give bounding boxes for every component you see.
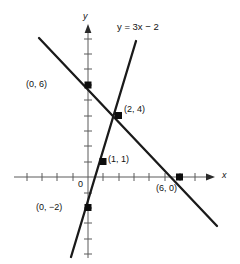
- x-axis: [14, 173, 215, 181]
- point-label-2-4: (2, 4): [124, 105, 145, 114]
- y-axis: [84, 24, 92, 258]
- origin-label: 0: [78, 180, 83, 189]
- marker-point-0-6: [85, 82, 92, 89]
- coordinate-plane-svg: [0, 0, 240, 264]
- equation-label: y = 3x − 2: [117, 22, 159, 32]
- marker-point-6-0: [176, 174, 183, 181]
- graph-figure: y x y = 3x − 2 0 (0, 6) (2, 4) (1, 1) (6…: [0, 0, 240, 264]
- line-y-equals-3x-minus-2: [71, 41, 136, 257]
- y-axis-label: y: [83, 12, 88, 21]
- x-axis-label: x: [222, 171, 227, 180]
- marker-point-1-1: [100, 158, 107, 165]
- point-label-6-0: (6, 0): [156, 184, 177, 193]
- marker-point-0-m2: [85, 204, 92, 211]
- point-label-0-6: (0, 6): [26, 80, 47, 89]
- point-label-0-minus-2: (0, −2): [36, 203, 62, 212]
- point-label-1-1: (1, 1): [108, 155, 129, 164]
- marker-point-2-4: [115, 112, 122, 119]
